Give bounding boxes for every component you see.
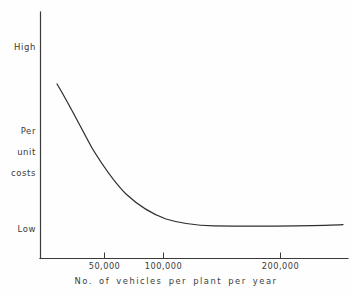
y-axis-label-high: High: [0, 42, 36, 52]
x-tick-label-200000: 200,000: [262, 261, 299, 271]
y-axis-title-line2: unit: [0, 147, 36, 157]
figure-root: High Per unit costs Low 50,000 100,000 2…: [0, 0, 352, 296]
y-axis-title-line3: costs: [0, 168, 36, 178]
x-tick-label-50000: 50,000: [89, 261, 121, 271]
x-tick-label-100000: 100,000: [145, 261, 182, 271]
chart-plot-area: [0, 0, 352, 296]
x-axis-caption: No. of vehicles per plant per year: [0, 276, 352, 286]
y-axis-title: Per unit costs: [0, 116, 36, 189]
y-axis-title-line1: Per: [0, 126, 36, 136]
cost-curve: [57, 84, 343, 226]
y-axis-label-low: Low: [0, 224, 36, 234]
